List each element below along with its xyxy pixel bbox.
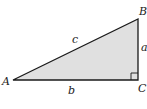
side-label-a: a [141, 41, 147, 54]
vertex-label-a: A [1, 75, 10, 88]
side-label-b: b [68, 84, 75, 97]
vertex-label-b: B [138, 5, 147, 18]
right-triangle-diagram: A B C c a b [0, 0, 147, 109]
vertex-label-c: C [138, 82, 147, 95]
side-label-c: c [72, 33, 78, 46]
triangle-shape [13, 19, 138, 80]
